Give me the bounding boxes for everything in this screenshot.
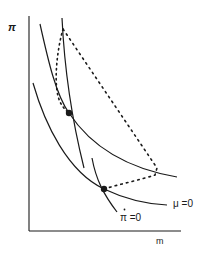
pi-dot-zero-label: π =0 [120,212,142,223]
lower-mu-curve [33,83,167,205]
upper-mu-curve [40,24,177,177]
y-axis-label: π [8,21,16,33]
x-axis-label: m [156,236,164,246]
upper-pi-dot-line [62,18,84,168]
dotted-return-path [56,29,69,113]
upper-equilibrium-dot [66,110,72,116]
pi-dot-accent [124,209,126,211]
mu-zero-label: μ =0 [173,198,193,209]
phase-diagram: π m μ =0 π =0 [0,0,210,254]
dotted-adjustment-path [63,29,157,189]
lower-equilibrium-dot [101,186,107,192]
